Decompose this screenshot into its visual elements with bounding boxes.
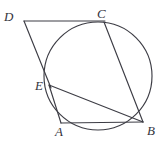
circumscribed-circle	[44, 22, 152, 130]
point-label-B: B	[147, 124, 155, 137]
point-label-C: C	[97, 7, 106, 20]
segment-EB	[49, 85, 143, 122]
point-label-D: D	[4, 10, 13, 23]
segment-AB	[61, 122, 143, 123]
point-label-A: A	[55, 125, 63, 138]
geometry-canvas	[0, 0, 166, 148]
segment-EA	[49, 85, 61, 123]
segment-CB	[104, 22, 143, 122]
point-label-E: E	[35, 79, 43, 92]
geometry-figure: D C E A B	[0, 0, 166, 148]
